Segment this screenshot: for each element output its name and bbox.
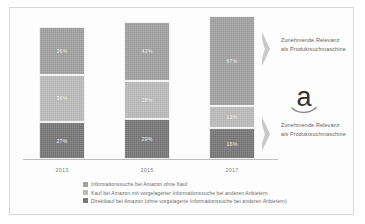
bar-segment-2017-informationssuche[interactable]: 67%	[209, 16, 255, 106]
annotation-lower-line2: als Produktsuchmaschine	[281, 130, 346, 139]
annotation-upper-line2: als Produktsuchmaschine	[281, 45, 346, 54]
bar-label-2015-mid: 28%	[142, 97, 153, 103]
legend-item-direktkauf[interactable]: Direktkauf bei Amazon (ohne vorgelagerte…	[83, 198, 287, 204]
arrow-icon-upper	[262, 32, 275, 66]
bar-label-2017-bot: 16%	[227, 141, 238, 147]
bar-group-2013[interactable]: 36% 36% 27%	[39, 27, 85, 159]
bar-segment-2017-kauf-vorgelagert[interactable]: 13%	[209, 106, 255, 128]
legend-swatch-kauf-vorgelagert	[83, 190, 88, 195]
x-axis-label-2015: 2015	[124, 167, 170, 173]
legend-label-direktkauf: Direktkauf bei Amazon (ohne vorgelagerte…	[91, 198, 287, 204]
bar-segment-2013-direktkauf[interactable]: 27%	[39, 122, 85, 159]
bar-segment-2015-direktkauf[interactable]: 29%	[124, 119, 170, 159]
annotation-upper: Zunehmende Relevanz als Produktsuchmasch…	[281, 36, 346, 54]
bar-segment-2015-informationssuche[interactable]: 43%	[124, 22, 170, 81]
legend-label-informationssuche: Informationssuche bei Amazon ohne Kauf	[91, 181, 187, 187]
chart-plot-area: 36% 36% 27% 43% 28% 29% 67%	[10, 8, 355, 216]
x-axis-line	[23, 159, 278, 160]
bar-segment-2013-kauf-vorgelagert[interactable]: 36%	[39, 75, 85, 123]
annotation-upper-line1: Zunehmende Relevanz	[281, 36, 346, 45]
bar-group-2017[interactable]: 67% 13% 16%	[209, 16, 255, 159]
legend-item-informationssuche[interactable]: Informationssuche bei Amazon ohne Kauf	[83, 181, 287, 187]
bar-label-2013-top: 36%	[57, 48, 68, 54]
annotation-lower-line1: Zunehmende Relevanz	[281, 121, 346, 130]
legend-swatch-informationssuche	[83, 182, 88, 187]
bar-label-2015-top: 43%	[142, 48, 153, 54]
bar-label-2015-bot: 29%	[142, 136, 153, 142]
annotation-lower: Zunehmende Relevanz als Produktsuchmasch…	[281, 121, 346, 139]
arrow-icon-lower	[262, 117, 275, 151]
bar-segment-2013-informationssuche[interactable]: 36%	[39, 27, 85, 75]
legend-swatch-direktkauf	[83, 198, 88, 203]
chart-legend: Informationssuche bei Amazon ohne Kauf K…	[83, 181, 287, 206]
bar-label-2013-bot: 27%	[57, 138, 68, 144]
legend-item-kauf-vorgelagert[interactable]: Kauf bei Amazon mit vorgelagerter Inform…	[83, 190, 287, 196]
chart-frame: 36% 36% 27% 43% 28% 29% 67%	[9, 7, 354, 215]
bar-group-2015[interactable]: 43% 28% 29%	[124, 22, 170, 159]
bar-segment-2015-kauf-vorgelagert[interactable]: 28%	[124, 81, 170, 120]
x-axis-label-2017: 2017	[209, 167, 255, 173]
amazon-logo: a	[286, 84, 322, 116]
amazon-smile-icon	[291, 106, 317, 115]
bar-label-2013-mid: 36%	[57, 95, 68, 101]
bar-label-2017-mid: 13%	[227, 114, 238, 120]
bar-segment-2017-direktkauf[interactable]: 16%	[209, 128, 255, 159]
legend-label-kauf-vorgelagert: Kauf bei Amazon mit vorgelagerter Inform…	[91, 190, 268, 196]
bar-label-2017-top: 67%	[227, 58, 238, 64]
x-axis-label-2013: 2013	[39, 167, 85, 173]
